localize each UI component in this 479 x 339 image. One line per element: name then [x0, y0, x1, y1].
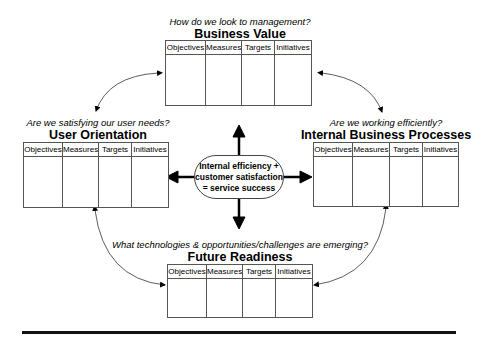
initiatives-cell — [276, 279, 312, 317]
business-value-table: Objectives Measures Targets Initiatives — [165, 40, 312, 106]
internal-processes-table: Objectives Measures Targets Initiatives — [313, 142, 459, 207]
column-header-targets: Targets — [242, 41, 274, 55]
column-header-initiatives: Initiatives — [132, 143, 168, 157]
measures-cell — [63, 157, 98, 207]
measures-cell — [353, 157, 389, 206]
central-goal-line-2: customer satisfaction — [195, 172, 283, 183]
future-readiness-table: Objectives Measures Targets Initiatives — [167, 264, 313, 318]
bottom-divider — [22, 331, 456, 334]
objectives-cell — [24, 157, 62, 207]
objectives-cell — [166, 55, 205, 105]
user-orientation-title: User Orientation — [0, 128, 196, 142]
user-orientation-table: Objectives Measures Targets Initiatives — [23, 142, 169, 208]
curve-arrow-top-right — [322, 73, 382, 112]
future-readiness-question: What technologies & opportunities/challe… — [90, 239, 390, 250]
business-value-title: Business Value — [140, 27, 340, 41]
central-goal-line-1: Internal efficiency + — [195, 161, 283, 172]
targets-cell — [390, 157, 422, 206]
measures-cell — [206, 55, 241, 105]
central-goal-line-3: = service success — [195, 183, 283, 194]
measures-cell — [207, 279, 242, 317]
targets-cell — [242, 55, 274, 105]
column-header-measures: Measures — [206, 41, 241, 55]
column-header-measures: Measures — [207, 265, 242, 279]
column-header-objectives: Objectives — [168, 265, 206, 279]
column-header-measures: Measures — [63, 143, 98, 157]
column-header-initiatives: Initiatives — [276, 265, 312, 279]
initiatives-cell — [423, 157, 458, 206]
objectives-cell — [168, 279, 206, 317]
column-header-initiatives: Initiatives — [423, 143, 458, 157]
central-goal-ellipse: Internal efficiency + customer satisfact… — [194, 155, 284, 199]
targets-cell — [243, 279, 275, 317]
column-header-targets: Targets — [390, 143, 422, 157]
targets-cell — [99, 157, 131, 207]
objectives-cell — [314, 157, 352, 206]
user-orientation-question: Are we satisfying our user needs? — [0, 117, 196, 128]
curve-arrow-top-left — [96, 73, 158, 111]
initiatives-cell — [275, 55, 311, 105]
internal-processes-title: Internal Business Processes — [300, 128, 472, 142]
column-header-targets: Targets — [243, 265, 275, 279]
column-header-initiatives: Initiatives — [275, 41, 311, 55]
future-readiness-title: Future Readiness — [90, 250, 390, 264]
business-value-question: How do we look to management? — [140, 16, 340, 27]
column-header-objectives: Objectives — [166, 41, 205, 55]
initiatives-cell — [132, 157, 168, 207]
column-header-targets: Targets — [99, 143, 131, 157]
column-header-measures: Measures — [353, 143, 389, 157]
internal-processes-question: Are we working efficiently? — [300, 117, 472, 128]
column-header-objectives: Objectives — [24, 143, 62, 157]
column-header-objectives: Objectives — [314, 143, 352, 157]
